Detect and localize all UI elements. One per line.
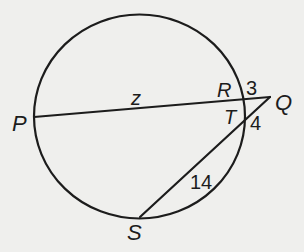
- point-label-S: S: [127, 220, 142, 245]
- point-label-R: R: [217, 79, 231, 101]
- measure-label-ST: 14: [190, 171, 212, 193]
- measure-label-PR: z: [130, 87, 141, 109]
- measure-label-TQ: 4: [250, 112, 261, 134]
- geometry-figure: P R Q T S z 3 4 14: [0, 0, 304, 252]
- point-label-P: P: [12, 111, 27, 136]
- circle-secants-diagram: P R Q T S z 3 4 14: [0, 0, 304, 252]
- measure-label-RQ: 3: [246, 77, 257, 99]
- circle: [34, 15, 245, 219]
- point-label-Q: Q: [275, 90, 292, 115]
- point-label-T: T: [224, 106, 238, 128]
